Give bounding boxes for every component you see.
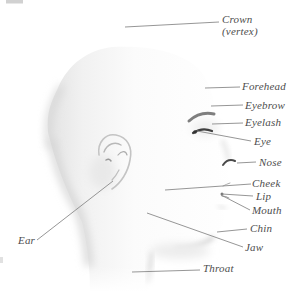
label-eyelash: Eyelash <box>245 116 281 128</box>
label-throat: Throat <box>203 262 234 274</box>
label-lip: Lip <box>256 190 271 202</box>
leader-line-chin <box>217 229 247 232</box>
head-diagram: Crown (vertex) Forehead Eyebrow Eyelash … <box>0 0 300 292</box>
label-crown-line2: (vertex) <box>222 25 258 37</box>
label-chin: Chin <box>250 222 272 234</box>
label-forehead: Forehead <box>242 80 286 92</box>
label-jaw: Jaw <box>245 241 263 253</box>
scan-artifacts <box>0 0 23 263</box>
label-nose: Nose <box>259 156 282 168</box>
head-outline <box>48 47 241 292</box>
leader-line-eyebrow <box>211 105 243 106</box>
label-mouth: Mouth <box>252 204 282 216</box>
label-eyebrow: Eyebrow <box>245 99 285 111</box>
label-crown-line1: Crown <box>222 13 258 25</box>
leader-line-nose <box>237 162 256 163</box>
label-eye: Eye <box>254 135 271 147</box>
leader-line-crown <box>125 22 219 27</box>
label-ear: Ear <box>18 234 35 246</box>
label-crown: Crown (vertex) <box>222 13 258 37</box>
eye-corner-mark <box>193 130 197 134</box>
leader-line-forehead <box>205 87 240 88</box>
leader-line-lip <box>222 194 253 196</box>
bottom-fade <box>0 266 300 292</box>
label-cheek: Cheek <box>252 177 280 189</box>
